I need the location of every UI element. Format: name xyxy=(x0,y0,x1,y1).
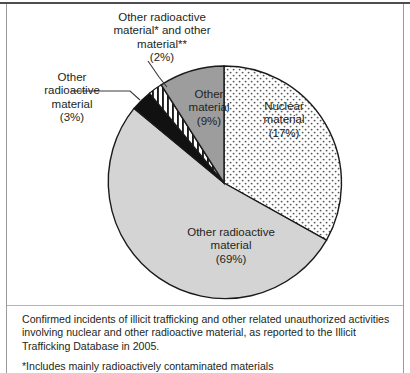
frame-top-rule xyxy=(0,2,410,4)
pie-chart-area: Other radioactive material* and other ma… xyxy=(7,5,403,305)
slice-label-nuclear-material: Nuclear material (17%) xyxy=(239,100,329,140)
frame-right-rule xyxy=(403,4,404,373)
caption-block: Confirmed incidents of illicit trafficki… xyxy=(22,313,392,373)
figure-panel: Other radioactive material* and other ma… xyxy=(0,0,410,373)
caption-footnote-text: *Includes mainly radioactively contamina… xyxy=(22,360,392,373)
callout-label-other-radioactive-and-other-material: Other radioactive material* and other ma… xyxy=(67,11,257,64)
leader-line-other-radioactive-and-other xyxy=(148,61,167,87)
caption-divider xyxy=(7,305,403,306)
slice-label-other-material: Other material (9%) xyxy=(177,88,241,128)
callout-label-other-radioactive-material-3: Other radioactive material (3%) xyxy=(11,71,133,124)
caption-main-text: Confirmed incidents of illicit trafficki… xyxy=(22,313,392,353)
slice-label-other-radioactive-material: Other radioactive material (69%) xyxy=(155,226,307,266)
